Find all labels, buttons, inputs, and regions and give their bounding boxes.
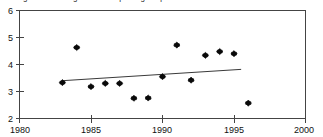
y-tick-label-4: 4 [8,60,13,70]
x-tick-label-1985: 1985 [81,125,101,135]
data-point [131,95,137,101]
data-point [102,80,108,86]
x-tick-label-2000: 2000 [294,125,314,135]
data-point [188,77,194,83]
trend-line [62,69,241,80]
data-point [145,95,151,101]
data-point-group [59,42,251,106]
y-tick-label-6: 6 [8,6,13,16]
data-point [117,80,123,86]
data-point [88,84,94,90]
data-point [202,52,208,58]
figure-container: Figure 1: Average 'reach' reporting freq… [0,0,323,137]
y-tick-label-2: 2 [8,114,13,124]
y-axis-tick-labels: 2 3 4 5 6 [8,6,13,124]
y-tick-label-5: 5 [8,33,13,43]
data-point [174,42,180,48]
axes-frame [20,11,306,119]
y-tick-label-3: 3 [8,87,13,97]
x-tick-label-1995: 1995 [224,125,244,135]
data-point [231,51,237,57]
x-tick-label-1980: 1980 [10,125,30,135]
data-point [245,100,251,106]
x-axis-tick-labels: 1980 1985 1990 1995 2000 [10,125,314,135]
data-point [217,48,223,54]
scatter-plot: 2 3 4 5 6 1980 1985 1990 1995 2000 [0,0,323,137]
x-tick-label-1990: 1990 [152,125,172,135]
data-point [74,44,80,50]
